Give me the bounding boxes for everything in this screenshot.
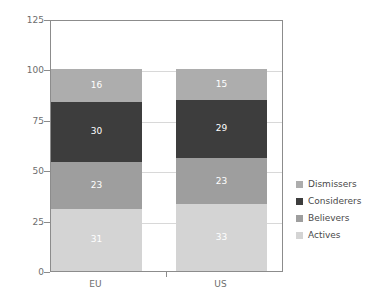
legend-label-dismissers: Dismissers xyxy=(308,180,357,189)
bar-value-label-eu-considerers: 30 xyxy=(91,127,102,136)
y-tick-label-50: 50 xyxy=(33,167,44,176)
legend: Dismissers Considerers Believers Actives xyxy=(296,176,361,244)
legend-label-considerers: Considerers xyxy=(308,197,361,206)
legend-item-actives[interactable]: Actives xyxy=(296,227,361,244)
bar-segment-us-actives[interactable]: 33 xyxy=(176,204,267,271)
bar-value-label-us-considerers: 29 xyxy=(216,124,227,133)
legend-label-actives: Actives xyxy=(308,231,341,240)
legend-label-believers: Believers xyxy=(308,214,350,223)
bar-eu[interactable]: 16 30 23 31 xyxy=(51,69,142,271)
bar-value-label-us-actives: 33 xyxy=(216,233,227,242)
bar-segment-eu-believers[interactable]: 23 xyxy=(51,162,142,208)
bar-segment-eu-considerers[interactable]: 30 xyxy=(51,102,142,163)
legend-swatch-actives-icon xyxy=(296,232,303,239)
plot-area: 16 30 23 31 15 29 23 33 xyxy=(50,20,283,272)
bar-us[interactable]: 15 29 23 33 xyxy=(176,69,267,271)
x-tick-label-eu: EU xyxy=(50,280,141,289)
y-tick-mark-0 xyxy=(44,272,50,273)
bar-segment-us-believers[interactable]: 23 xyxy=(176,158,267,204)
bar-segment-us-considerers[interactable]: 29 xyxy=(176,100,267,159)
bar-value-label-eu-believers: 23 xyxy=(91,181,102,190)
bar-value-label-us-believers: 23 xyxy=(216,177,227,186)
bar-value-label-eu-dismissers: 16 xyxy=(91,81,102,90)
y-tick-label-100: 100 xyxy=(27,66,44,75)
y-tick-label-75: 75 xyxy=(33,117,44,126)
legend-swatch-considerers-icon xyxy=(296,198,303,205)
legend-item-dismissers[interactable]: Dismissers xyxy=(296,176,361,193)
legend-swatch-dismissers-icon xyxy=(296,181,303,188)
bar-segment-eu-actives[interactable]: 31 xyxy=(51,209,142,272)
x-tick-mark-center xyxy=(166,272,167,277)
bar-value-label-eu-actives: 31 xyxy=(91,235,102,244)
legend-item-considerers[interactable]: Considerers xyxy=(296,193,361,210)
legend-item-believers[interactable]: Believers xyxy=(296,210,361,227)
x-tick-label-us: US xyxy=(175,280,266,289)
y-tick-label-125: 125 xyxy=(27,16,44,25)
legend-swatch-believers-icon xyxy=(296,215,303,222)
y-tick-label-0: 0 xyxy=(38,268,44,277)
bar-segment-eu-dismissers[interactable]: 16 xyxy=(51,69,142,101)
bar-segment-us-dismissers[interactable]: 15 xyxy=(176,69,267,99)
stacked-bar-chart: 125 100 75 50 25 0 16 30 23 31 xyxy=(0,0,371,304)
bar-value-label-us-dismissers: 15 xyxy=(216,80,227,89)
y-tick-label-25: 25 xyxy=(33,218,44,227)
